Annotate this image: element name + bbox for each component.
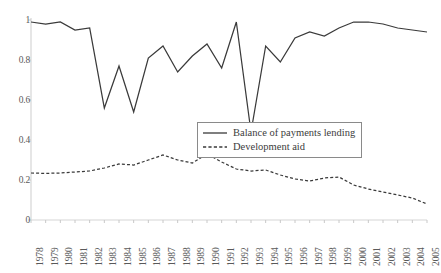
legend-label: Development aid: [233, 141, 305, 153]
x-tick-label: 1979: [50, 247, 60, 266]
x-tick-label: 1978: [35, 247, 45, 266]
x-tick-label: 1994: [270, 247, 280, 266]
x-tick-label: 1988: [182, 247, 192, 266]
x-tick-label: 1993: [255, 247, 265, 266]
x-tick-label: 2005: [431, 247, 441, 266]
legend-dashed-line-icon: [202, 142, 228, 152]
x-tick-label: 2003: [402, 247, 412, 266]
x-tick-label: 2000: [358, 247, 368, 266]
legend-item-balance-of-payments-lending: Balance of payments lending: [202, 126, 355, 140]
x-tick-label: 1992: [240, 247, 250, 266]
x-tick-label: 1984: [123, 247, 133, 266]
x-tick-label: 1995: [284, 247, 294, 266]
x-tick-label: 1998: [328, 247, 338, 266]
legend-solid-line-icon: [202, 128, 228, 138]
x-tick-label: 2004: [416, 247, 426, 266]
x-tick-label: 1986: [152, 247, 162, 266]
x-tick-label: 1999: [343, 247, 353, 266]
x-tick-label: 2002: [387, 247, 397, 266]
x-tick-label: 1980: [64, 247, 74, 266]
x-tick-label: 1990: [211, 247, 221, 266]
legend-label: Balance of payments lending: [233, 127, 355, 139]
x-tick-label: 1982: [94, 247, 104, 266]
x-tick-label: 1996: [299, 247, 309, 266]
x-tick-label: 1981: [79, 247, 89, 266]
legend-item-development-aid: Development aid: [202, 140, 355, 154]
chart-legend: Balance of payments lending Development …: [197, 122, 362, 158]
x-tick-label: 1989: [196, 247, 206, 266]
x-tick-label: 1991: [226, 247, 236, 266]
x-tick-label: 1987: [167, 247, 177, 266]
x-tick-label: 1997: [314, 247, 324, 266]
x-tick-label: 1983: [108, 247, 118, 266]
x-tick-label: 1985: [138, 247, 148, 266]
x-tick-label: 2001: [372, 247, 382, 266]
